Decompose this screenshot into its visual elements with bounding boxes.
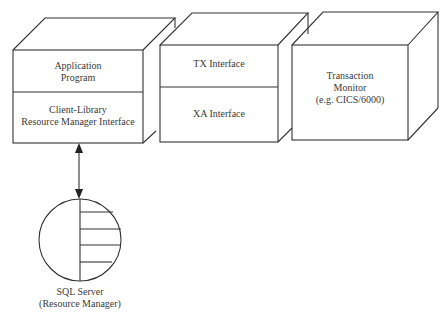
- label-line: TX Interface: [160, 58, 278, 70]
- database-icon: [39, 199, 121, 281]
- label-line: Client-Library: [13, 104, 143, 116]
- tx-interface-label: TX Interface: [160, 58, 278, 70]
- label-line: (e.g. CICS/6000): [292, 94, 408, 106]
- interfaces-box: [160, 13, 308, 142]
- label-line: (Resource Manager): [20, 298, 140, 310]
- transaction-monitor-label: Transaction Monitor (e.g. CICS/6000): [292, 70, 408, 106]
- label-line: Program: [13, 72, 143, 84]
- client-library-label: Client-Library Resource Manager Interfac…: [13, 104, 143, 128]
- xa-interface-label: XA Interface: [160, 108, 278, 120]
- label-line: Monitor: [292, 82, 408, 94]
- label-line: Transaction: [292, 70, 408, 82]
- application-program-label: Application Program: [13, 60, 143, 84]
- diagram-canvas: [0, 0, 447, 320]
- sql-server-label: SQL Server (Resource Manager): [20, 286, 140, 310]
- label-line: XA Interface: [160, 108, 278, 120]
- label-line: SQL Server: [20, 286, 140, 298]
- label-line: Resource Manager Interface: [13, 116, 143, 128]
- label-line: Application: [13, 60, 143, 72]
